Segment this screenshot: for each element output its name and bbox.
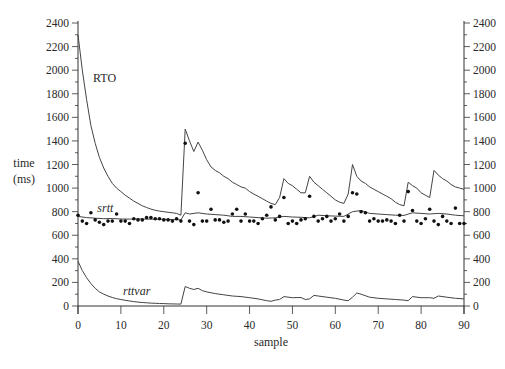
rtt-sample-point	[158, 217, 162, 221]
y-tick-label-right: 2000	[473, 64, 496, 76]
rtt-chart: 0020020040040060060080080010001000120012…	[0, 0, 505, 369]
rtt-sample-point	[351, 191, 355, 195]
x-tick-label: 30	[201, 319, 213, 331]
y-tick-label-left: 2400	[46, 17, 69, 29]
rtt-sample-point	[286, 222, 290, 226]
rtt-sample-point	[269, 205, 273, 209]
rtt-sample-point	[98, 221, 102, 225]
srtt-label: srtt	[97, 201, 114, 215]
x-tick-label: 40	[244, 319, 256, 331]
rtt-sample-point	[248, 219, 252, 223]
rtt-sample-point	[235, 208, 239, 212]
rtt-sample-point	[278, 215, 282, 219]
RTO-label: RTO	[93, 71, 116, 85]
rtt-sample-point	[454, 206, 458, 210]
series-layer	[76, 35, 466, 304]
x-tick-label: 50	[287, 319, 299, 331]
rtt-sample-point	[432, 219, 436, 223]
rtt-sample-point	[376, 219, 380, 223]
x-tick-label: 60	[330, 319, 342, 331]
rtt-sample-point	[445, 219, 449, 223]
rtt-sample-point	[368, 219, 372, 223]
y-tick-label-right: 1200	[473, 159, 496, 171]
rtt-sample-point	[381, 219, 385, 223]
y-tick-label-left: 1600	[46, 111, 69, 123]
rtt-sample-point	[136, 218, 140, 222]
rtt-sample-point	[171, 219, 175, 223]
rtt-sample-point	[355, 192, 359, 196]
rtt-sample-point	[406, 190, 410, 194]
rtt-sample-point	[244, 212, 248, 216]
x-tick-label: 20	[158, 319, 170, 331]
rtt-sample-point	[261, 217, 265, 221]
rtt-sample-point	[226, 219, 230, 223]
y-tick-label-left: 2200	[46, 41, 69, 53]
rtt-sample-point	[141, 218, 145, 222]
rtt-sample-point	[462, 222, 466, 226]
y-tick-label-right: 400	[473, 253, 491, 265]
y-tick-label-right: 800	[473, 206, 491, 218]
y-axis-title: time	[13, 156, 34, 170]
rtt-sample-point	[389, 219, 393, 223]
rtt-sample-point	[149, 216, 153, 220]
y-tick-label-left: 1000	[46, 182, 69, 194]
RTO-line	[78, 35, 464, 215]
rtt-sample-point	[458, 222, 462, 226]
y-tick-label-right: 2200	[473, 41, 496, 53]
rtt-sample-point	[153, 217, 157, 221]
rtt-sample-point	[394, 222, 398, 226]
y-tick-label-right: 0	[473, 300, 479, 312]
rtt-sample-point	[415, 219, 419, 223]
rttvar-label: rttvar	[123, 284, 151, 298]
rtt-sample-point	[398, 213, 402, 217]
y-tick-label-right: 2400	[473, 17, 496, 29]
y-tick-label-left: 1800	[46, 88, 69, 100]
y-tick-label-left: 400	[52, 253, 70, 265]
rtt-sample-point	[299, 218, 303, 222]
rtt-sample-point	[123, 219, 127, 223]
y-tick-label-right: 1000	[473, 182, 496, 194]
rtt-sample-point	[132, 217, 136, 221]
rtt-sample-point	[175, 217, 179, 221]
y-tick-label-left: 200	[52, 276, 70, 288]
rtt-sample-point	[325, 215, 329, 219]
rtt-sample-point	[256, 222, 260, 226]
x-tick-label: 70	[372, 319, 384, 331]
y-tick-label-left: 0	[63, 300, 69, 312]
axes: 0020020040040060060080080010001000120012…	[46, 17, 496, 331]
rtt-sample-point	[162, 218, 166, 222]
rtt-sample-point	[179, 219, 183, 223]
x-tick-label: 80	[415, 319, 427, 331]
rtt-sample-point	[205, 219, 209, 223]
rtt-sample-point	[312, 215, 316, 219]
rtt-sample-point	[372, 217, 376, 221]
y-tick-label-right: 1600	[473, 111, 496, 123]
x-tick-label: 0	[75, 319, 81, 331]
rtt-sample-point	[385, 218, 389, 222]
rtt-sample-point	[308, 195, 312, 199]
rtt-sample-point	[102, 223, 106, 227]
y-tick-label-right: 200	[473, 276, 491, 288]
rtt-sample-point	[231, 212, 235, 216]
rtt-sample-point	[128, 222, 132, 226]
rtt-sample-point	[402, 219, 406, 223]
rtt-sample-point	[295, 222, 299, 226]
rtt-sample-point	[274, 218, 278, 222]
rtt-sample-point	[321, 217, 325, 221]
rtt-sample-point	[449, 222, 453, 226]
rtt-sample-point	[346, 215, 350, 219]
rtt-sample-point	[419, 222, 423, 226]
rtt-sample-point	[213, 218, 217, 222]
y-tick-label-left: 800	[52, 206, 70, 218]
rtt-sample-point	[76, 213, 80, 217]
rtt-sample-point	[334, 217, 338, 221]
rtt-sample-point	[441, 215, 445, 219]
rtt-sample-point	[166, 218, 170, 222]
rtt-sample-point	[145, 216, 149, 220]
rtt-sample-point	[359, 210, 363, 214]
srtt-line	[78, 211, 464, 220]
rtt-sample-point	[424, 217, 428, 221]
y-tick-label-left: 2000	[46, 64, 69, 76]
rtt-sample-point	[239, 219, 243, 223]
rtt-sample-point	[222, 221, 226, 225]
